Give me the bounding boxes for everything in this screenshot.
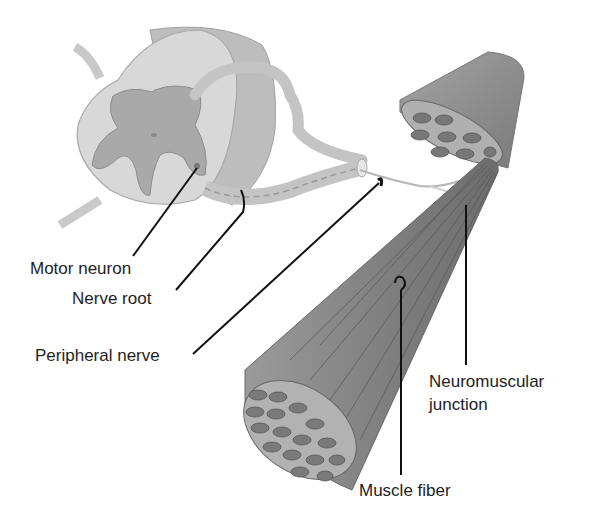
label-motor-neuron: Motor neuron — [30, 259, 131, 278]
muscle — [225, 158, 498, 500]
label-nerve-root: Nerve root — [72, 289, 151, 308]
label-neuromuscular-junction: Neuromuscular — [429, 372, 544, 391]
label-muscle-fiber: Muscle fiber — [359, 481, 451, 500]
muscle-bundle-upper — [393, 52, 524, 176]
label-peripheral-nerve: Peripheral nerve — [35, 346, 160, 365]
label-neuromuscular-junction-line2: junction — [429, 395, 488, 414]
